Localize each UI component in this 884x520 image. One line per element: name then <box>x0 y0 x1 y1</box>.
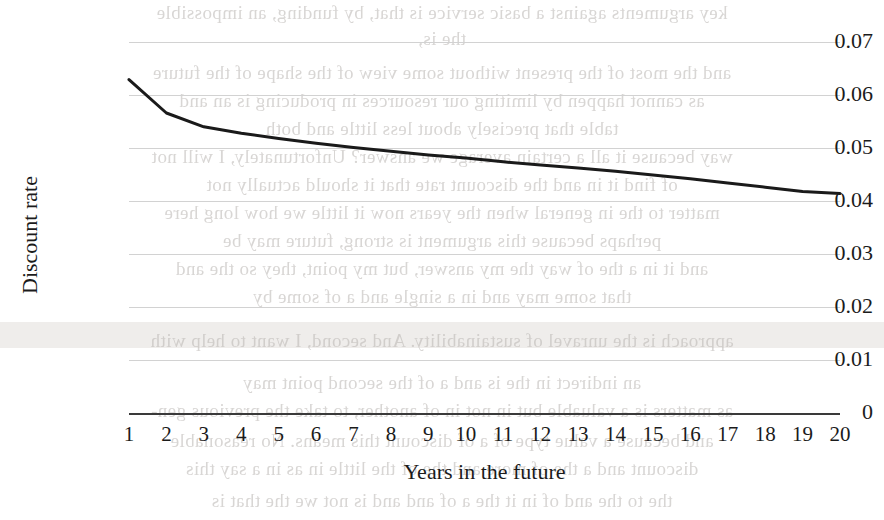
series-plot-area <box>0 0 884 520</box>
line-chart: 0.070.060.050.040.030.020.010 1234567891… <box>0 0 884 520</box>
discount-rate-line <box>129 80 840 194</box>
x-axis-title: Years in the future <box>129 459 840 485</box>
y-axis-title: Discount rate <box>17 125 43 345</box>
chart-page: key arguments against a basic service is… <box>0 0 884 520</box>
